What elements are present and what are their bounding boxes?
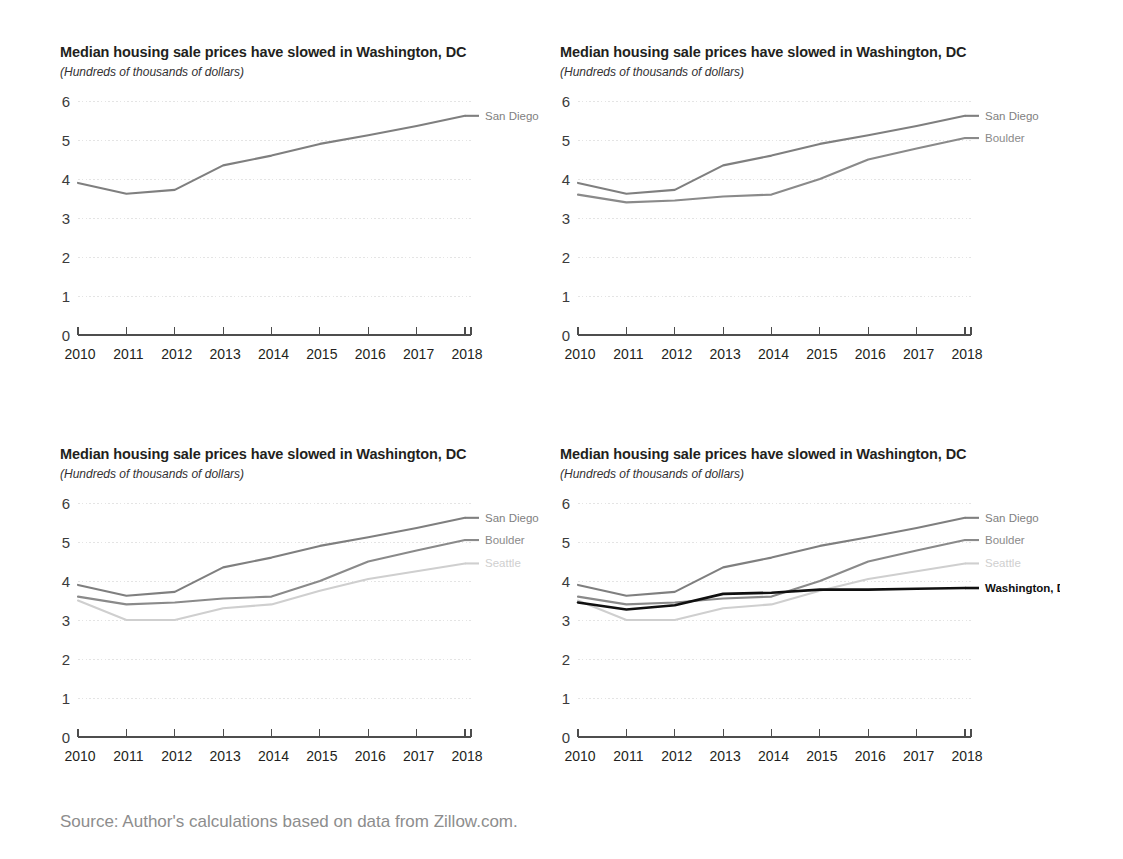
svg-text:5: 5 — [562, 131, 570, 148]
svg-text:Seattle: Seattle — [985, 557, 1021, 569]
panel-subtitle: (Hundreds of thousands of dollars) — [560, 65, 1060, 79]
svg-text:2013: 2013 — [710, 748, 741, 764]
svg-text:2011: 2011 — [113, 748, 143, 764]
svg-text:3: 3 — [562, 209, 570, 226]
svg-text:San Diego: San Diego — [485, 109, 539, 121]
svg-text:2017: 2017 — [903, 346, 934, 362]
panel-subtitle: (Hundreds of thousands of dollars) — [60, 467, 560, 481]
svg-text:2013: 2013 — [710, 346, 741, 362]
chart-panel-1: Median housing sale prices have slowed i… — [60, 44, 560, 394]
panel-subtitle: (Hundreds of thousands of dollars) — [560, 467, 1060, 481]
svg-text:0: 0 — [562, 326, 570, 343]
svg-text:2017: 2017 — [403, 748, 434, 764]
svg-text:6: 6 — [562, 495, 570, 512]
plot-area-3: 0123456201020112012201320142015201620172… — [60, 495, 560, 785]
svg-text:2015: 2015 — [806, 748, 837, 764]
svg-text:2012: 2012 — [661, 748, 692, 764]
svg-text:2011: 2011 — [613, 748, 643, 764]
svg-text:4: 4 — [562, 572, 570, 589]
svg-text:2011: 2011 — [613, 346, 643, 362]
svg-text:0: 0 — [562, 728, 570, 745]
svg-text:2012: 2012 — [161, 346, 192, 362]
svg-text:0: 0 — [62, 728, 70, 745]
svg-text:2010: 2010 — [564, 748, 595, 764]
svg-text:1: 1 — [562, 287, 570, 304]
source-note: Source: Author's calculations based on d… — [60, 812, 518, 832]
panel-title: Median housing sale prices have slowed i… — [560, 44, 1060, 61]
svg-text:4: 4 — [562, 170, 570, 187]
plot-area-1: 0123456201020112012201320142015201620172… — [60, 93, 560, 383]
svg-text:2010: 2010 — [64, 748, 95, 764]
svg-text:1: 1 — [62, 689, 70, 706]
svg-text:3: 3 — [62, 209, 70, 226]
svg-text:2010: 2010 — [564, 346, 595, 362]
svg-text:6: 6 — [62, 495, 70, 512]
svg-text:San Diego: San Diego — [985, 109, 1039, 121]
svg-text:2017: 2017 — [903, 748, 934, 764]
svg-text:3: 3 — [562, 611, 570, 628]
svg-text:2012: 2012 — [661, 346, 692, 362]
svg-text:3: 3 — [62, 611, 70, 628]
svg-text:5: 5 — [62, 131, 70, 148]
svg-text:2015: 2015 — [306, 748, 337, 764]
svg-text:4: 4 — [62, 170, 70, 187]
svg-text:2014: 2014 — [758, 748, 789, 764]
svg-text:2018: 2018 — [951, 748, 982, 764]
panel-title: Median housing sale prices have slowed i… — [60, 44, 560, 61]
svg-text:2016: 2016 — [355, 346, 386, 362]
svg-text:Boulder: Boulder — [485, 534, 525, 546]
svg-text:2018: 2018 — [451, 346, 482, 362]
svg-text:2014: 2014 — [258, 748, 289, 764]
svg-text:2015: 2015 — [806, 346, 837, 362]
svg-text:2012: 2012 — [161, 748, 192, 764]
svg-text:6: 6 — [62, 93, 70, 110]
svg-text:2014: 2014 — [758, 346, 789, 362]
svg-text:2011: 2011 — [113, 346, 143, 362]
svg-text:2: 2 — [62, 248, 70, 265]
panel-subtitle: (Hundreds of thousands of dollars) — [60, 65, 560, 79]
svg-text:2018: 2018 — [951, 346, 982, 362]
svg-text:5: 5 — [62, 533, 70, 550]
svg-text:2013: 2013 — [210, 748, 241, 764]
svg-text:2014: 2014 — [258, 346, 289, 362]
svg-text:2010: 2010 — [64, 346, 95, 362]
svg-text:2016: 2016 — [355, 748, 386, 764]
svg-text:Boulder: Boulder — [985, 132, 1025, 144]
svg-text:5: 5 — [562, 533, 570, 550]
svg-text:1: 1 — [62, 287, 70, 304]
panel-title: Median housing sale prices have slowed i… — [560, 446, 1060, 463]
svg-text:2: 2 — [62, 650, 70, 667]
svg-text:Boulder: Boulder — [985, 534, 1025, 546]
panel-title: Median housing sale prices have slowed i… — [60, 446, 560, 463]
svg-text:San Diego: San Diego — [485, 511, 539, 523]
svg-text:Washington, DC: Washington, DC — [985, 582, 1060, 594]
svg-text:4: 4 — [62, 572, 70, 589]
plot-area-4: 0123456201020112012201320142015201620172… — [560, 495, 1060, 785]
svg-text:2016: 2016 — [855, 346, 886, 362]
svg-text:2017: 2017 — [403, 346, 434, 362]
svg-text:2018: 2018 — [451, 748, 482, 764]
svg-text:2016: 2016 — [855, 748, 886, 764]
chart-panel-3: Median housing sale prices have slowed i… — [60, 446, 560, 796]
svg-text:2015: 2015 — [306, 346, 337, 362]
svg-text:6: 6 — [562, 93, 570, 110]
svg-text:Seattle: Seattle — [485, 557, 521, 569]
plot-area-2: 0123456201020112012201320142015201620172… — [560, 93, 1060, 383]
svg-text:0: 0 — [62, 326, 70, 343]
small-multiples-figure: Median housing sale prices have slowed i… — [0, 0, 1123, 859]
svg-text:1: 1 — [562, 689, 570, 706]
svg-text:2013: 2013 — [210, 346, 241, 362]
svg-text:2: 2 — [562, 650, 570, 667]
chart-panel-4: Median housing sale prices have slowed i… — [560, 446, 1060, 796]
svg-text:2: 2 — [562, 248, 570, 265]
svg-text:San Diego: San Diego — [985, 511, 1039, 523]
chart-panel-2: Median housing sale prices have slowed i… — [560, 44, 1060, 394]
